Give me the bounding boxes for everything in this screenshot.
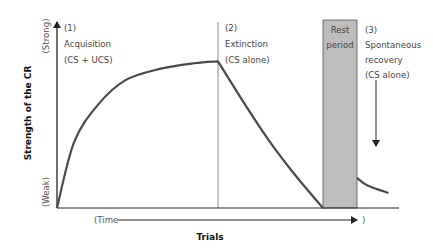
phase-2-condition: (CS alone) <box>225 55 270 65</box>
phase-1-name: Acquisition <box>64 39 111 49</box>
time-label: (Time <box>94 215 118 225</box>
time-label-close: ) <box>362 215 365 225</box>
phase-1-number: (1) <box>64 23 76 33</box>
y-top-label: (Strong) <box>41 18 51 53</box>
phase-3-condition: (CS alone) <box>365 70 410 80</box>
phase-3-number: (3) <box>365 25 377 35</box>
rest-label-line1: Rest <box>331 25 350 35</box>
phase-1-condition: (CS + UCS) <box>64 55 113 65</box>
phase-3-name-line2: recovery <box>365 55 403 65</box>
classical-conditioning-diagram: (Time ) Trials Strength of the CR (Stron… <box>0 0 433 250</box>
phase-3-name-line1: Spontaneous <box>365 40 422 50</box>
x-axis-title: Trials <box>196 232 223 242</box>
y-bottom-label: (Weak) <box>41 177 51 207</box>
spontaneous-recovery-curve <box>357 178 389 193</box>
acquisition-curve <box>57 61 218 208</box>
y-axis-title: Strength of the CR <box>23 66 33 161</box>
rest-label-line2: period <box>326 40 353 50</box>
phase-2-name: Extinction <box>225 39 268 49</box>
extinction-curve <box>218 61 323 208</box>
phase-2-number: (2) <box>225 23 237 33</box>
